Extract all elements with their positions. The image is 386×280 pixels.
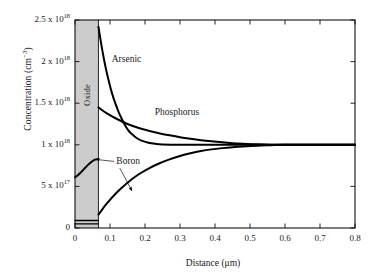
x-tick-label: 0 bbox=[55, 233, 95, 243]
x-tick-label: 0.1 bbox=[90, 233, 130, 243]
y-tick-label-text: 2 x 1018 bbox=[0, 56, 70, 66]
y-tick-label: 1.5 x 1018 bbox=[0, 97, 70, 107]
y-tick-label-text: 2.5 x 1018 bbox=[0, 14, 70, 24]
x-tick-label: 0.2 bbox=[125, 233, 165, 243]
x-axis-title: Distance (μm) bbox=[0, 258, 386, 268]
y-tick-label: 2 x 1018 bbox=[0, 56, 70, 66]
y-tick-label-text: 5 x 1017 bbox=[0, 180, 70, 190]
x-axis-title-text: Distance (μm) bbox=[186, 258, 240, 268]
plot-frame bbox=[75, 20, 355, 228]
curve-label-boron: Boron bbox=[116, 156, 140, 166]
y-tick-label: 0 bbox=[0, 222, 70, 232]
x-tick-label: 0.7 bbox=[300, 233, 340, 243]
curve-boron bbox=[98, 145, 355, 215]
curve-label-phosphorus: Phosphorus bbox=[155, 107, 199, 117]
region-oxide bbox=[75, 20, 98, 228]
y-tick-label-text: 0 bbox=[0, 222, 70, 232]
plot-generated-content bbox=[75, 20, 355, 228]
x-tick-label: 0.4 bbox=[195, 233, 235, 243]
y-tick-label: 5 x 1017 bbox=[0, 180, 70, 190]
y-tick-label-text: 1.5 x 1018 bbox=[0, 97, 70, 107]
y-tick-label: 2.5 x 1018 bbox=[0, 14, 70, 24]
concentration-vs-distance-chart: Concentration (cm−3) Distance (μm) 05 x … bbox=[0, 0, 386, 280]
curve-label-arsenic: Arsenic bbox=[112, 54, 142, 64]
y-tick-label-text: 1 x 1018 bbox=[0, 139, 70, 149]
x-tick-label: 0.5 bbox=[230, 233, 270, 243]
region-label-oxide: Oxide bbox=[82, 75, 92, 115]
y-tick-label: 1 x 1018 bbox=[0, 139, 70, 149]
x-tick-label: 0.8 bbox=[335, 233, 375, 243]
x-tick-label: 0.6 bbox=[265, 233, 305, 243]
x-tick-label: 0.3 bbox=[160, 233, 200, 243]
